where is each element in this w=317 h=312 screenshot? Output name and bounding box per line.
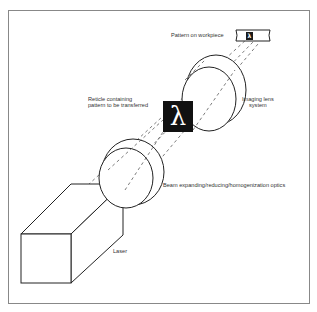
label-beam-optics: Beam expanding/reducing/homogenization o… xyxy=(163,182,285,188)
workpiece-pattern: λ xyxy=(246,32,253,40)
workpiece xyxy=(236,30,270,41)
label-imaging-lens: Imaging lens system xyxy=(242,96,274,109)
label-imaging-lens-line2: system xyxy=(242,102,274,108)
label-reticle-line2: pattern to be transferred xyxy=(88,102,148,108)
beam-optics-lens xyxy=(99,139,164,208)
label-pattern-on-workpiece: Pattern on workpiece xyxy=(171,32,224,38)
reticle-pattern: λ xyxy=(163,101,193,132)
label-reticle: Reticle containing pattern to be transfe… xyxy=(88,96,148,109)
laser-projection-diagram xyxy=(0,0,317,312)
label-laser: Laser xyxy=(113,248,127,254)
